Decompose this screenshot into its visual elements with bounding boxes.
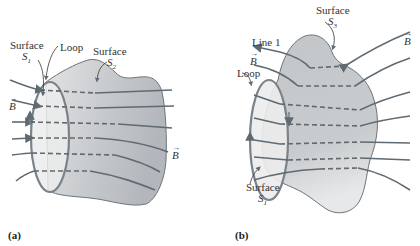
label-loop-a: Loop: [60, 42, 83, 53]
label-surface-s1-b: Surface S1: [246, 182, 280, 209]
panel-b: Surface S3 Line 1 B B Loop Surface S1 (b…: [210, 0, 420, 246]
label-surface-s2: Surface S2: [93, 46, 127, 73]
label-surface-s1-a: Surface S1: [10, 40, 44, 67]
panel-a: Surface S1 Loop Surface S2 B B (a): [0, 0, 210, 246]
panel-b-drawing: [210, 0, 420, 246]
panel-tag-b: (b): [235, 229, 248, 241]
label-surface-s3: Surface S3: [316, 5, 350, 32]
panel-a-drawing: [0, 0, 210, 246]
panel-tag-a: (a): [8, 229, 21, 241]
label-loop-b: Loop: [237, 68, 260, 79]
label-b-vector-left-b: B: [250, 56, 257, 67]
label-line-1: Line 1: [252, 37, 280, 48]
label-b-vector-right-b: B: [404, 36, 411, 47]
loop-s1: [31, 82, 69, 192]
label-b-vector-left-a: B: [9, 101, 16, 112]
label-b-vector-right-a: B: [172, 150, 179, 161]
